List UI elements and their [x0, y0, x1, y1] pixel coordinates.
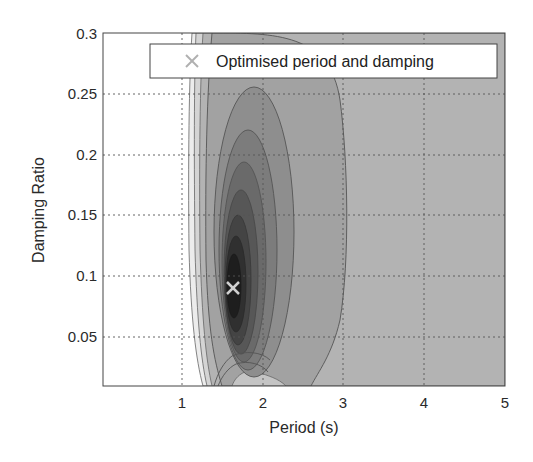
- x-axis-label: Period (s): [269, 419, 338, 436]
- x-tick: 3: [339, 394, 347, 411]
- y-tick: 0.3: [76, 25, 97, 42]
- y-tick-labels: 0.05 0.1 0.15 0.2 0.25 0.3: [68, 25, 97, 345]
- legend-label: Optimised period and damping: [216, 53, 434, 70]
- legend: Optimised period and damping: [150, 44, 497, 78]
- x-tick: 5: [501, 394, 509, 411]
- y-tick: 0.1: [76, 267, 97, 284]
- y-axis-label: Damping Ratio: [30, 157, 47, 263]
- x-tick: 1: [178, 394, 186, 411]
- x-tick: 2: [259, 394, 267, 411]
- y-tick: 0.05: [68, 328, 97, 345]
- contour-chart: Optimised period and damping 1 2 3 4 5 0…: [0, 0, 533, 462]
- x-tick: 4: [420, 394, 428, 411]
- x-tick-labels: 1 2 3 4 5: [178, 394, 509, 411]
- y-tick: 0.25: [68, 85, 97, 102]
- contour-fill: [103, 33, 505, 386]
- y-tick: 0.2: [76, 146, 97, 163]
- y-tick: 0.15: [68, 206, 97, 223]
